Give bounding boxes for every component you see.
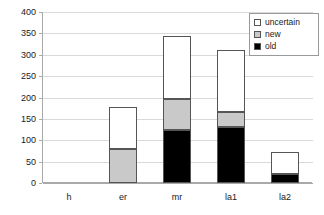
bar-segment-uncertain[interactable] (271, 152, 299, 174)
y-tick-label: 200 (21, 93, 36, 102)
bar-stack (271, 152, 299, 183)
x-axis-labels: hermrla1la2 (42, 192, 312, 208)
x-tick-label-er: er (119, 192, 127, 202)
bar-segment-new[interactable] (109, 149, 137, 183)
legend-item-new[interactable]: new (254, 29, 314, 40)
bar-stack (163, 36, 191, 183)
bar-stack (109, 107, 137, 183)
stacked-bar-chart: 050100150200250300350400 hermrla1la2 unc… (0, 0, 324, 215)
x-tick-label-la1: la1 (225, 192, 237, 202)
legend-item-uncertain[interactable]: uncertain (254, 17, 314, 28)
y-tick-mark (39, 183, 42, 184)
y-tick-label: 300 (21, 50, 36, 59)
x-tick-label-mr: mr (172, 192, 183, 202)
legend-label-uncertain: uncertain (265, 18, 300, 27)
bar-group-h[interactable] (42, 12, 96, 183)
y-tick-label: 0 (31, 179, 36, 188)
y-tick-label: 350 (21, 29, 36, 38)
x-tick-label-la2: la2 (279, 192, 291, 202)
bar-segment-old[interactable] (163, 130, 191, 183)
legend-item-old[interactable]: old (254, 41, 314, 52)
gray-square-icon (254, 31, 261, 38)
y-tick-label: 250 (21, 72, 36, 81)
bar-segment-uncertain[interactable] (163, 36, 191, 99)
y-axis: 050100150200250300350400 (0, 0, 40, 183)
bar-segment-uncertain[interactable] (217, 50, 245, 112)
x-tick-label-h: h (66, 192, 71, 202)
legend: uncertain new old (249, 13, 319, 56)
black-square-icon (254, 43, 261, 50)
bar-group-er[interactable] (96, 12, 150, 183)
legend-label-new: new (265, 30, 281, 39)
bar-segment-uncertain[interactable] (109, 107, 137, 149)
bar-segment-new[interactable] (163, 99, 191, 130)
white-square-icon (254, 19, 261, 26)
y-tick-label: 150 (21, 114, 36, 123)
bar-segment-old[interactable] (217, 127, 245, 183)
y-tick-label: 400 (21, 8, 36, 17)
y-tick-label: 50 (26, 157, 36, 166)
bar-stack (217, 50, 245, 183)
bar-group-mr[interactable] (150, 12, 204, 183)
gridline-0 (43, 183, 313, 184)
y-tick-label: 100 (21, 136, 36, 145)
bar-segment-old[interactable] (271, 174, 299, 183)
legend-label-old: old (265, 42, 276, 51)
bar-segment-new[interactable] (217, 112, 245, 128)
